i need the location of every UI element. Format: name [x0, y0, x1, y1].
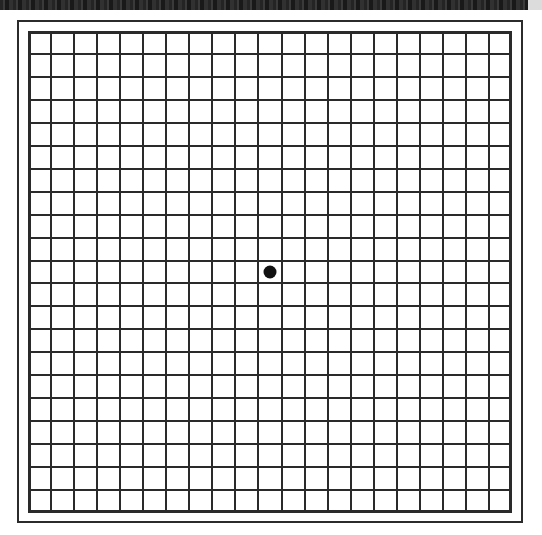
scan-edge-band-corner: [528, 0, 542, 10]
amsler-grid-page: [0, 0, 542, 535]
scan-edge-band: [0, 0, 528, 10]
amsler-grid-svg: [28, 31, 512, 513]
fixation-dot: [264, 266, 277, 279]
amsler-grid: [28, 31, 512, 513]
paper-margin: [0, 524, 542, 535]
